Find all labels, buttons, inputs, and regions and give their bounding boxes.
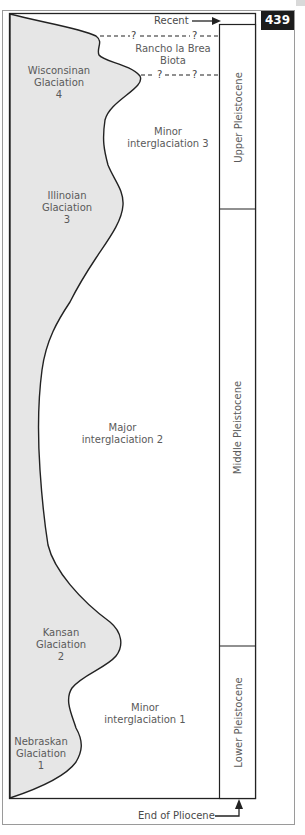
pliocene-arrow-head bbox=[235, 799, 243, 809]
interglaciation-name: interglaciation 3 bbox=[118, 138, 218, 150]
interglaciation-name: interglaciation 2 bbox=[70, 434, 175, 446]
glaciation-name: Illinoian bbox=[22, 190, 112, 202]
glaciation-word: Glaciation bbox=[2, 748, 80, 760]
glaciation-label-wisconsinan: Wisconsinan Glaciation 4 bbox=[14, 65, 104, 101]
glaciation-number: 1 bbox=[2, 760, 80, 772]
end-of-pliocene-label: End of Pliocene bbox=[138, 810, 215, 821]
glaciation-word: Glaciation bbox=[16, 639, 106, 651]
interglaciation-name: interglaciation 1 bbox=[95, 714, 195, 726]
interglaciation-type: Minor bbox=[95, 702, 195, 714]
rancho-la-brea-biota-label: Rancho la Brea Biota bbox=[128, 43, 218, 67]
period-label: Lower Pleistocene bbox=[233, 677, 244, 767]
interglaciation-type: Minor bbox=[118, 126, 218, 138]
period-middle-pleistocene: Middle Pleistocene bbox=[220, 209, 256, 646]
uncertain-mark: ? bbox=[157, 70, 162, 80]
uncertain-mark: ? bbox=[131, 31, 136, 41]
period-label: Upper Pleistocene bbox=[233, 72, 244, 163]
glaciation-word: Glaciation bbox=[22, 202, 112, 214]
glaciation-number: 2 bbox=[16, 651, 106, 663]
glaciation-name: Wisconsinan bbox=[14, 65, 104, 77]
interglaciation-label-2: Major interglaciation 2 bbox=[70, 422, 175, 446]
interglaciation-label-1: Minor interglaciation 1 bbox=[95, 702, 195, 726]
interglaciation-type: Major bbox=[70, 422, 175, 434]
glaciation-word: Glaciation bbox=[14, 77, 104, 89]
period-lower-pleistocene: Lower Pleistocene bbox=[220, 646, 256, 798]
biota-line2: Biota bbox=[128, 55, 218, 67]
glaciation-label-nebraskan: Nebraskan Glaciation 1 bbox=[2, 736, 80, 772]
uncertain-mark: ? bbox=[192, 31, 197, 41]
glaciation-label-illinoian: Illinoian Glaciation 3 bbox=[22, 190, 112, 226]
period-upper-pleistocene: Upper Pleistocene bbox=[220, 25, 256, 209]
period-label: Middle Pleistocene bbox=[233, 381, 244, 474]
pliocene-arrow-line bbox=[215, 808, 239, 816]
glaciation-number: 3 bbox=[22, 214, 112, 226]
recent-label: Recent bbox=[154, 15, 189, 26]
glaciation-number: 4 bbox=[14, 89, 104, 101]
glaciation-name: Kansan bbox=[16, 627, 106, 639]
glaciation-name: Nebraskan bbox=[2, 736, 80, 748]
glaciation-label-kansan: Kansan Glaciation 2 bbox=[16, 627, 106, 663]
interglaciation-label-3: Minor interglaciation 3 bbox=[118, 126, 218, 150]
uncertain-mark: ? bbox=[192, 70, 197, 80]
biota-line1: Rancho la Brea bbox=[128, 43, 218, 55]
